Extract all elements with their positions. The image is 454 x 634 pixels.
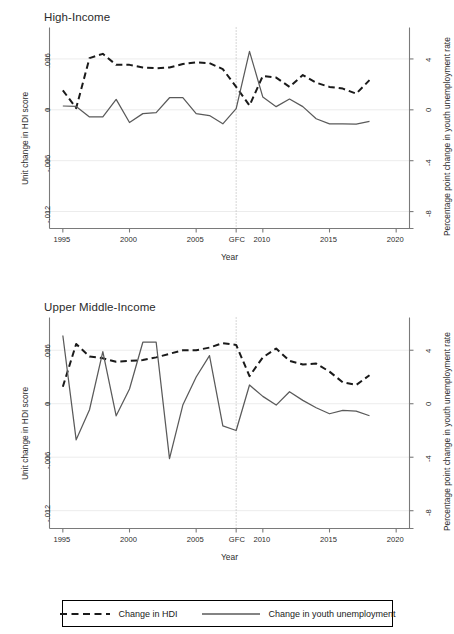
y-axis-title-right: Percentage point change in youth unemplo… (442, 332, 452, 531)
x-axis-title: Year (50, 552, 410, 562)
ytick-label-right: -4 (424, 159, 433, 166)
xtick-label: 1995 (53, 235, 70, 244)
ytick-label-right: 4 (424, 349, 433, 353)
legend-entries: Change in HDI Change in youth unemployme… (63, 601, 392, 626)
xtick-label: 2005 (187, 535, 204, 544)
legend-entry-hdi: Change in HDI (59, 609, 177, 619)
ytick-label-right: 4 (424, 57, 433, 61)
chart-panel-upper-middle-income: Upper Middle-Income .0060-.006-.01240-4-… (0, 290, 454, 590)
ytick-label-left: -.006 (43, 155, 52, 172)
legend-label-hdi: Change in HDI (118, 609, 177, 619)
y-axis-title-left: Unit change in HDI score (20, 92, 30, 185)
ytick-label-left: .006 (43, 53, 52, 68)
ytick-label-left: -.012 (43, 206, 52, 223)
chart-panel-high-income: High-Income .0060-.006-.01240-4-81995200… (0, 0, 454, 290)
ytick-label-left: -.012 (43, 505, 52, 522)
xtick-label: 1995 (53, 535, 70, 544)
xtick-label: 2005 (187, 235, 204, 244)
x-axis-title: Year (50, 252, 410, 262)
legend-label-youth-unemployment: Change in youth unemployment (268, 609, 395, 619)
series-line-hdi (63, 54, 370, 108)
xtick-label: 2020 (387, 535, 404, 544)
ytick-label-right: -8 (424, 509, 433, 516)
xtick-label: 2010 (253, 535, 270, 544)
figure-page: High-Income .0060-.006-.01240-4-81995200… (0, 0, 454, 634)
legend-swatch-dashed-icon (59, 609, 111, 619)
xtick-label: 2015 (320, 535, 337, 544)
chart-legend: Change in HDI Change in youth unemployme… (62, 600, 393, 627)
xtick-label: GFC (229, 535, 245, 544)
y-axis-title-right: Percentage point change in youth unemplo… (442, 37, 452, 236)
xtick-label: 2020 (387, 235, 404, 244)
ytick-label-left: 0 (43, 108, 52, 112)
legend-entry-youth-unemployment: Change in youth unemployment (201, 609, 395, 619)
y-axis-title-left: Unit change in HDI score (20, 387, 30, 480)
ytick-label-left: .006 (43, 345, 52, 360)
xtick-label: GFC (229, 235, 245, 244)
xtick-label: 2000 (120, 535, 137, 544)
series-line-youth-unemployment (63, 336, 370, 459)
xtick-label: 2010 (253, 235, 270, 244)
series-line-youth-unemployment (63, 51, 370, 124)
legend-swatch-solid-icon (201, 609, 261, 619)
ytick-label-left: -.006 (43, 451, 52, 468)
xtick-label: 2015 (320, 235, 337, 244)
ytick-label-right: -8 (424, 210, 433, 217)
ytick-label-right: 0 (424, 402, 433, 406)
ytick-label-left: 0 (43, 402, 52, 406)
ytick-label-right: -4 (424, 456, 433, 463)
plot-area-high-income (0, 0, 454, 290)
plot-area-upper-middle-income (0, 290, 454, 590)
ytick-label-right: 0 (424, 108, 433, 112)
xtick-label: 2000 (120, 235, 137, 244)
